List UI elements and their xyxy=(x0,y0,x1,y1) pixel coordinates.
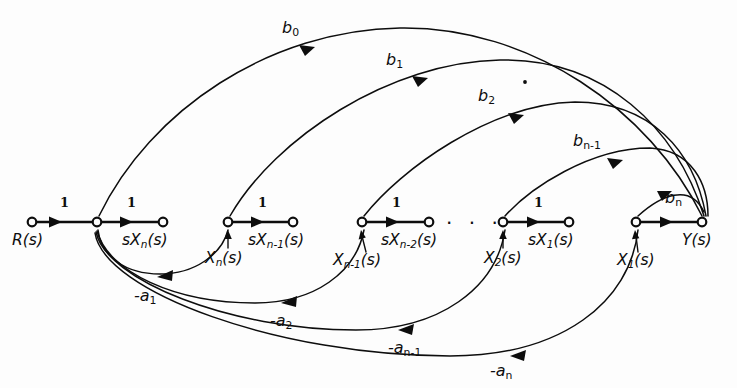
state-label-Xn-tail: (s) xyxy=(222,249,242,267)
arrowhead-an xyxy=(510,350,526,361)
state-label-X2: X2(s) xyxy=(484,251,522,267)
node-label-sXn1-base: sX xyxy=(248,231,267,249)
state-label-Xn1-sub: n-1 xyxy=(344,258,361,270)
gain-label-b2: b2 xyxy=(478,88,495,107)
arrowhead-R-sum xyxy=(49,217,62,228)
gain-label-b0: b0 xyxy=(282,20,299,39)
chain-ellipsis: · · · xyxy=(446,213,503,233)
gain-label-b1-sub: 1 xyxy=(396,58,403,71)
state-label-X2-tail: (s) xyxy=(501,249,521,267)
node-label-sXn: sXn(s) xyxy=(122,233,168,249)
gain-label-bn-1-base: b xyxy=(573,131,583,150)
gain-label-bn-sub: n xyxy=(675,196,682,209)
gain-label-bn-base: b xyxy=(665,188,675,207)
arrowhead-a2 xyxy=(281,296,297,307)
feedforward-edges xyxy=(99,28,708,216)
gain-label-unity-5: 1 xyxy=(534,196,543,209)
arrowhead-X2-sX1 xyxy=(527,217,540,228)
gain-label-a1: -a1 xyxy=(134,288,157,307)
gain-label-an: -an xyxy=(490,363,513,382)
gain-label-an-1-base: a xyxy=(394,338,404,357)
gain-label-a1-base: a xyxy=(140,286,150,305)
node-R[interactable] xyxy=(28,218,37,227)
node-label-R: R(s) xyxy=(12,233,43,249)
arrowhead-Xn-sXn1 xyxy=(251,217,264,228)
gain-label-unity-3: 1 xyxy=(258,196,267,209)
gain-label-bn: bn xyxy=(665,190,682,209)
arrowhead-a1 xyxy=(157,270,173,281)
node-label-sXn1-sub: n-1 xyxy=(267,238,284,250)
node-label-sXn2: sXn-2(s) xyxy=(381,233,437,249)
state-label-X2-base: X xyxy=(484,249,495,267)
node-label-Y: Y(s) xyxy=(682,233,712,249)
gain-label-unity-1: 1 xyxy=(60,196,69,209)
signal-flow-graph-figure: R(s) sXn(s) sXn-1(s) sXn-2(s) sX1(s) Y(s… xyxy=(0,0,737,388)
state-label-Xn1: Xn-1(s) xyxy=(333,253,381,269)
state-label-Xn1-base: X xyxy=(333,251,344,269)
edge-b1 xyxy=(230,60,704,216)
gain-label-b2-sub: 2 xyxy=(488,94,495,107)
arrowhead-b2 xyxy=(508,113,524,124)
gain-label-b0-base: b xyxy=(282,18,292,37)
gain-label-a2: -a2 xyxy=(270,313,293,332)
node-label-sXn2-base: sX xyxy=(381,231,400,249)
gain-label-bn-1-sub: n-1 xyxy=(583,139,601,152)
graph-canvas xyxy=(0,0,737,388)
state-label-X1: X1(s) xyxy=(617,253,655,269)
state-label-X1-tail: (s) xyxy=(634,251,654,269)
feedforward-arrowheads xyxy=(299,45,672,201)
gain-label-a1-sub: 1 xyxy=(150,294,157,307)
node-X1[interactable] xyxy=(632,218,641,227)
state-label-Xn1-tail: (s) xyxy=(361,251,381,269)
node-Xn[interactable] xyxy=(224,218,233,227)
arrowhead-b1 xyxy=(412,76,428,87)
node-label-sXn1: sXn-1(s) xyxy=(248,233,304,249)
node-label-sXn-tail: (s) xyxy=(147,231,167,249)
gain-label-unity-2: 1 xyxy=(127,196,136,209)
node-label-sX1-base: sX xyxy=(528,231,547,249)
arrowhead-bn-1 xyxy=(607,158,623,169)
node-Xn1[interactable] xyxy=(358,218,367,227)
branch-ellipsis-dot xyxy=(523,80,527,84)
gain-label-an-sub: n xyxy=(506,369,513,382)
gain-label-b1-base: b xyxy=(386,50,396,69)
gain-label-unity-4: 1 xyxy=(392,196,401,209)
node-label-sXn2-sub: n-2 xyxy=(400,238,417,250)
gain-label-a2-base: a xyxy=(276,311,286,330)
node-label-sXn-base: sX xyxy=(122,231,141,249)
node-Y[interactable] xyxy=(698,218,707,227)
node-sXn2[interactable] xyxy=(425,218,434,227)
node-sXn[interactable] xyxy=(159,218,168,227)
arrowhead-b0 xyxy=(299,45,315,56)
state-label-Xn-base: X xyxy=(205,249,216,267)
node-sX1[interactable] xyxy=(565,218,574,227)
gain-label-an-1-sub: n-1 xyxy=(404,346,422,359)
gain-label-bn-1: bn-1 xyxy=(573,133,601,152)
arrowhead-X1-Y xyxy=(660,217,673,228)
gain-label-b1: b1 xyxy=(386,52,403,71)
gain-label-an-1: -an-1 xyxy=(388,340,421,359)
gain-label-an-base: a xyxy=(496,361,506,380)
state-label-X1-base: X xyxy=(617,251,628,269)
state-label-Xn: Xn(s) xyxy=(205,251,242,267)
node-sXn1[interactable] xyxy=(289,218,298,227)
node-sum[interactable] xyxy=(93,218,102,227)
node-label-sX1: sX1(s) xyxy=(528,233,574,249)
arrowhead-Xn1-sXn2 xyxy=(386,217,399,228)
node-label-sXn1-tail: (s) xyxy=(284,231,304,249)
gain-label-b2-base: b xyxy=(478,86,488,105)
gain-label-a2-sub: 2 xyxy=(286,319,293,332)
node-label-sXn2-tail: (s) xyxy=(417,231,437,249)
gain-label-b0-sub: 0 xyxy=(292,26,299,39)
arrowhead-sum-sXn xyxy=(120,217,133,228)
node-label-sX1-tail: (s) xyxy=(553,231,573,249)
